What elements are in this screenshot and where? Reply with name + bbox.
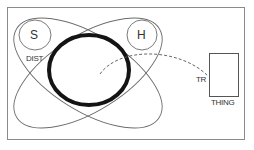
center-ring [49,35,129,105]
label-h: H [137,29,146,41]
diagram-canvas [0,0,254,150]
label-thing: THING [211,99,234,107]
label-s: S [30,29,38,41]
outer-frame [8,8,245,140]
dashed-connector [100,54,208,76]
label-tr: TR [196,76,206,84]
label-dist: DIST [26,55,43,63]
thing-box [210,54,239,97]
